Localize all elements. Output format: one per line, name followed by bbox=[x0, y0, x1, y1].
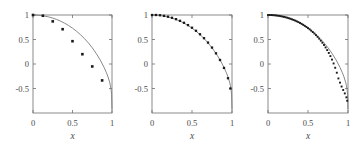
y-tick-label: -0.5 bbox=[251, 84, 264, 94]
data-point bbox=[318, 38, 320, 40]
x-tick-label: 0.5 bbox=[303, 118, 314, 128]
data-point bbox=[325, 46, 327, 48]
data-point bbox=[342, 89, 344, 91]
data-point bbox=[313, 33, 315, 35]
x-tick-label: 0 bbox=[266, 118, 270, 128]
x-axis-label: x bbox=[305, 131, 311, 141]
y-tick-label: 0 bbox=[260, 59, 264, 69]
data-point bbox=[321, 42, 323, 44]
data-point bbox=[334, 67, 336, 69]
data-point bbox=[323, 44, 325, 46]
data-point bbox=[329, 55, 331, 57]
curve-model-curve bbox=[268, 15, 348, 109]
x-tick-label: 1 bbox=[346, 118, 350, 128]
data-point bbox=[317, 36, 319, 38]
data-point bbox=[315, 34, 317, 36]
panel-3-canvas: 00.51-0.500.51x bbox=[0, 0, 363, 148]
y-tick-label: 1 bbox=[260, 10, 264, 20]
data-point bbox=[331, 59, 333, 61]
data-point bbox=[320, 40, 322, 42]
data-point bbox=[336, 72, 338, 74]
data-point bbox=[346, 100, 348, 102]
data-point bbox=[341, 86, 343, 88]
data-point bbox=[345, 96, 347, 98]
data-point bbox=[344, 92, 346, 94]
data-point bbox=[333, 63, 335, 65]
y-tick-label: 0.5 bbox=[253, 35, 264, 45]
data-point bbox=[328, 52, 330, 54]
data-point bbox=[339, 82, 341, 84]
panel-3-axes-frame bbox=[268, 15, 348, 113]
figure-three-panel-plot: 00.51-0.500.51x00.51-0.500.51x00.51-0.50… bbox=[0, 0, 363, 148]
panel-3: 00.51-0.500.51x bbox=[0, 0, 363, 148]
data-point bbox=[337, 78, 339, 80]
data-point bbox=[326, 49, 328, 51]
